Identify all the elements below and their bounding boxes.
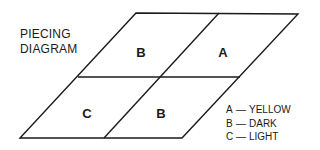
color-legend: A—YELLOW B—DARK C—LIGHT	[226, 103, 291, 144]
legend-key: C	[226, 130, 234, 144]
title-line-1: PIECING	[20, 27, 77, 42]
cell-label-bottom-left: C	[82, 106, 91, 121]
legend-value: DARK	[249, 118, 277, 129]
diagram-title: PIECING DIAGRAM	[20, 27, 77, 57]
legend-dash: —	[236, 130, 246, 144]
legend-row-b: B—DARK	[226, 117, 291, 131]
legend-key: A	[226, 103, 234, 117]
legend-row-c: C—LIGHT	[226, 130, 291, 144]
legend-value: LIGHT	[249, 131, 278, 142]
legend-row-a: A—YELLOW	[226, 103, 291, 117]
cell-label-top-right: A	[218, 45, 227, 60]
legend-dash: —	[236, 117, 246, 131]
cell-label-top-left: B	[136, 45, 145, 60]
legend-key: B	[226, 117, 234, 131]
legend-value: YELLOW	[249, 104, 291, 115]
legend-dash: —	[236, 103, 246, 117]
cell-label-bottom-right: B	[156, 106, 165, 121]
title-line-2: DIAGRAM	[20, 42, 77, 57]
